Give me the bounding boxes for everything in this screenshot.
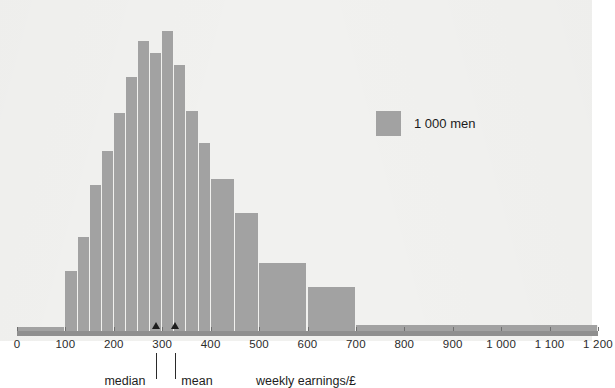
x-axis-tick-label: 800 bbox=[394, 338, 414, 350]
x-axis-tick bbox=[65, 327, 66, 331]
histogram-bar bbox=[90, 185, 102, 331]
x-axis-tick-label: 1 100 bbox=[535, 338, 565, 350]
x-axis-tick-label: 1 000 bbox=[486, 338, 516, 350]
histogram-bar bbox=[150, 53, 162, 331]
x-axis-tick bbox=[211, 327, 212, 331]
x-axis-tick-label: 200 bbox=[104, 338, 124, 350]
x-axis-tick bbox=[598, 327, 599, 331]
histogram-bar bbox=[199, 143, 211, 331]
x-axis-tick bbox=[501, 327, 502, 331]
histogram-bar bbox=[65, 271, 77, 331]
mean-arrow-icon bbox=[171, 322, 179, 329]
histogram-bar bbox=[102, 151, 114, 331]
x-axis-title: weekly earnings/£ bbox=[256, 374, 356, 388]
mean-label: mean bbox=[181, 374, 212, 388]
median-label: median bbox=[104, 374, 145, 388]
x-axis-tick bbox=[550, 327, 551, 331]
histogram-bar bbox=[259, 263, 307, 331]
x-axis-tick bbox=[356, 327, 357, 331]
x-axis-tick-label: 0 bbox=[14, 338, 21, 350]
x-axis-tick-label: 700 bbox=[346, 338, 366, 350]
x-axis-tick-label: 300 bbox=[152, 338, 172, 350]
x-axis-tick-label: 500 bbox=[249, 338, 269, 350]
x-axis-tick-label: 100 bbox=[56, 338, 76, 350]
histogram-bar bbox=[114, 113, 126, 331]
chart-legend: 1 000 men bbox=[376, 111, 475, 136]
legend-label-men: 1 000 men bbox=[414, 116, 475, 131]
x-axis-tick bbox=[453, 327, 454, 331]
x-axis-tick bbox=[17, 327, 18, 331]
x-axis-tick-label: 900 bbox=[443, 338, 463, 350]
histogram-bar bbox=[186, 111, 198, 331]
histogram-bar bbox=[308, 287, 356, 331]
histogram-bar bbox=[162, 31, 174, 331]
x-axis-tick bbox=[308, 327, 309, 331]
histogram-bar bbox=[235, 213, 259, 331]
mean-leader-line bbox=[175, 353, 176, 379]
histogram-bar bbox=[211, 179, 235, 331]
histogram-bar bbox=[174, 65, 186, 331]
histogram-bar bbox=[138, 41, 150, 331]
legend-swatch-men bbox=[376, 111, 401, 136]
x-axis-tick bbox=[162, 327, 163, 331]
x-axis-tick bbox=[259, 327, 260, 331]
histogram-bar bbox=[126, 77, 138, 331]
median-arrow-icon bbox=[152, 322, 160, 329]
x-axis-line bbox=[17, 331, 598, 336]
median-leader-line bbox=[156, 353, 157, 379]
x-axis-tick bbox=[404, 327, 405, 331]
x-axis-tick-label: 400 bbox=[201, 338, 221, 350]
histogram-bar bbox=[78, 237, 90, 331]
x-axis-tick-label: 1 200 bbox=[583, 338, 613, 350]
x-axis-tick bbox=[114, 327, 115, 331]
x-axis-tick-label: 600 bbox=[298, 338, 318, 350]
